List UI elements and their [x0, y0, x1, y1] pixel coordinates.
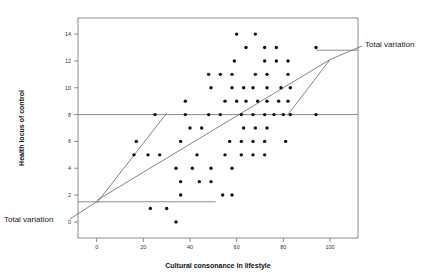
x-tick-label: 100 — [325, 244, 334, 250]
regression-line-overall — [97, 60, 330, 201]
data-point-group — [132, 32, 317, 223]
data-point — [265, 86, 268, 89]
upper-label-leader — [330, 46, 362, 60]
data-point — [263, 113, 266, 116]
data-point — [286, 99, 289, 102]
data-point — [153, 113, 156, 116]
data-point — [265, 73, 268, 76]
data-point — [244, 46, 247, 49]
data-point — [242, 126, 245, 129]
total-variation-lower: Total variation — [4, 215, 53, 224]
y-tick-label: 4 — [68, 165, 71, 171]
data-point — [263, 46, 266, 49]
data-point — [242, 86, 245, 89]
data-point — [251, 86, 254, 89]
data-point — [265, 99, 268, 102]
data-point — [314, 113, 317, 116]
data-point — [286, 59, 289, 62]
data-point — [240, 113, 243, 116]
data-point — [240, 153, 243, 156]
data-point — [158, 153, 161, 156]
data-point — [289, 113, 292, 116]
data-point — [221, 193, 224, 196]
data-point — [191, 167, 194, 170]
data-point — [251, 153, 254, 156]
data-point — [179, 193, 182, 196]
data-point — [165, 207, 168, 210]
data-point — [230, 73, 233, 76]
data-point — [275, 46, 278, 49]
data-point — [219, 73, 222, 76]
data-point — [230, 193, 233, 196]
data-point — [230, 86, 233, 89]
data-point — [275, 59, 278, 62]
data-point — [188, 126, 191, 129]
data-point — [223, 153, 226, 156]
y-tick-label: 10 — [65, 85, 71, 91]
data-point — [251, 140, 254, 143]
data-point — [277, 99, 280, 102]
data-point — [254, 126, 257, 129]
data-point — [240, 140, 243, 143]
data-point — [179, 140, 182, 143]
y-tick-label: 12 — [65, 58, 71, 64]
data-point — [146, 153, 149, 156]
y-tick-label: 2 — [68, 192, 71, 198]
data-point — [282, 113, 285, 116]
data-point — [184, 113, 187, 116]
data-point — [184, 99, 187, 102]
data-point — [254, 73, 257, 76]
lower-label-leader — [70, 202, 97, 219]
data-point — [149, 207, 152, 210]
data-point — [198, 180, 201, 183]
y-tick-label: 0 — [68, 219, 71, 225]
variation-segment-right — [288, 60, 330, 115]
data-point — [235, 99, 238, 102]
data-point — [279, 86, 282, 89]
data-point — [272, 113, 275, 116]
data-point — [223, 99, 226, 102]
data-point — [209, 180, 212, 183]
data-point — [179, 180, 182, 183]
data-point — [207, 113, 210, 116]
x-axis-title: Cultural consonance in lifestyle — [165, 262, 271, 270]
regression-line-steep — [97, 113, 167, 203]
data-point — [209, 86, 212, 89]
data-point — [263, 59, 266, 62]
data-point — [135, 140, 138, 143]
data-point — [195, 153, 198, 156]
data-point — [207, 73, 210, 76]
x-tick-label: 40 — [187, 244, 193, 250]
data-point — [228, 140, 231, 143]
data-point — [219, 113, 222, 116]
data-point — [254, 32, 257, 35]
data-point — [244, 99, 247, 102]
data-point — [289, 86, 292, 89]
y-axis-title: Health locus of control — [18, 90, 25, 166]
total-variation-upper: Total variation — [365, 40, 414, 49]
data-point — [263, 140, 266, 143]
data-point — [263, 153, 266, 156]
data-point — [174, 220, 177, 223]
data-point — [256, 99, 259, 102]
x-tick-label: 60 — [234, 244, 240, 250]
data-point — [235, 32, 238, 35]
x-tick-label: 0 — [95, 244, 98, 250]
data-point — [132, 153, 135, 156]
data-point — [286, 73, 289, 76]
data-point — [174, 167, 177, 170]
y-tick-label: 14 — [65, 31, 71, 37]
data-point — [200, 126, 203, 129]
plot-frame — [78, 18, 358, 238]
data-point — [265, 126, 268, 129]
data-point — [284, 140, 287, 143]
y-tick-label: 6 — [68, 138, 71, 144]
x-tick-label: 20 — [140, 244, 146, 250]
y-tick-label: 8 — [68, 112, 71, 118]
data-point — [251, 113, 254, 116]
data-point — [209, 167, 212, 170]
scatter-plot-figure: 02040608010002468101214Cultural consonan… — [0, 0, 432, 275]
data-point — [230, 167, 233, 170]
data-point — [233, 59, 236, 62]
data-point — [314, 46, 317, 49]
